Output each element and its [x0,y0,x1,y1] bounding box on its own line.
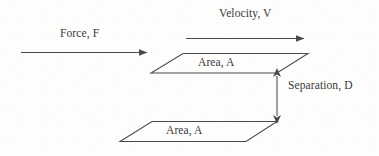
viscosity-plates-diagram: Velocity, V Force, F Area, A Separation,… [0,0,379,156]
separation-label: Separation, D [288,80,353,92]
top-plate-area-label: Area, A [198,57,234,69]
force-label: Force, F [60,28,99,40]
separation-arrow [273,68,281,124]
bottom-plate-area-label: Area, A [166,125,202,137]
velocity-label: Velocity, V [219,8,272,20]
separation-arrow-head-down [273,115,281,124]
